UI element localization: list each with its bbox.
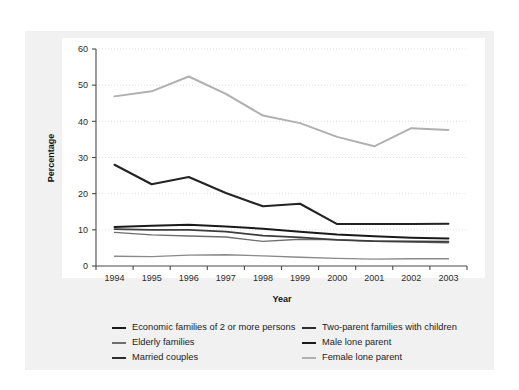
legend-swatch-icon [302,357,316,359]
legend-swatch-icon [112,357,126,359]
legend-item-label: Female lone parent [322,352,402,363]
y-tick-label-10: 10 [78,225,88,235]
x-tick-label-2003: 2003 [438,273,458,283]
x-tick-label-2002: 2002 [401,273,421,283]
legend-item-female-lone-parent[interactable]: Female lone parent [302,350,492,365]
x-tick-label-2001: 2001 [364,273,384,283]
x-tick-label-1999: 1999 [290,273,310,283]
series-line-married-couples [115,255,449,259]
legend-item-label: Two-parent families with children [322,322,457,333]
legend-swatch-icon [302,342,316,344]
legend-item-married-couples[interactable]: Married couples [112,350,302,365]
x-tick-label-1997: 1997 [216,273,236,283]
y-tick-label-60: 60 [78,44,88,54]
y-tick-marks-group [92,49,96,266]
y-tick-label-30: 30 [78,153,88,163]
y-tick-label-50: 50 [78,80,88,90]
legend-item-economic-families-of-2-or-more-persons[interactable]: Economic families of 2 or more persons [112,320,302,335]
series-line-female-lone-parent [115,76,449,146]
gridlines-group [96,49,467,230]
legend-item-label: Elderly families [132,337,195,348]
legend-item-label: Male lone parent [322,337,391,348]
legend-column-right: Two-parent families with childrenMale lo… [302,320,492,365]
x-tick-label-1995: 1995 [142,273,162,283]
y-tick-label-0: 0 [83,261,88,271]
x-axis-title: Year [272,294,292,304]
legend-column-left: Economic families of 2 or more personsEl… [112,320,302,365]
figure-root: 0102030405060 19941995199619971998199920… [0,0,519,390]
x-tick-label-1998: 1998 [253,273,273,283]
legend-item-elderly-families[interactable]: Elderly families [112,335,302,350]
x-tick-labels-group: 1994199519961997199819992000200120022003 [105,273,459,283]
legend-swatch-icon [112,327,126,329]
series-line-two-parent-families-with-children [115,165,449,224]
x-tick-label-1996: 1996 [179,273,199,283]
x-tick-marks-group [96,266,467,270]
y-tick-labels-group: 0102030405060 [78,44,88,271]
y-tick-label-20: 20 [78,189,88,199]
data-series-group [115,76,449,259]
x-tick-label-2000: 2000 [327,273,347,283]
y-tick-label-40: 40 [78,117,88,127]
legend-item-label: Married couples [132,352,198,363]
x-tick-label-1994: 1994 [105,273,125,283]
legend-item-male-lone-parent[interactable]: Male lone parent [302,335,492,350]
legend-item-two-parent-families-with-children[interactable]: Two-parent families with children [302,320,492,335]
legend-swatch-icon [302,327,316,329]
legend-item-label: Economic families of 2 or more persons [132,322,295,333]
legend-swatch-icon [112,342,126,344]
chart-legend: Economic families of 2 or more personsEl… [112,320,472,366]
y-axis-title: Percentage [46,134,56,183]
